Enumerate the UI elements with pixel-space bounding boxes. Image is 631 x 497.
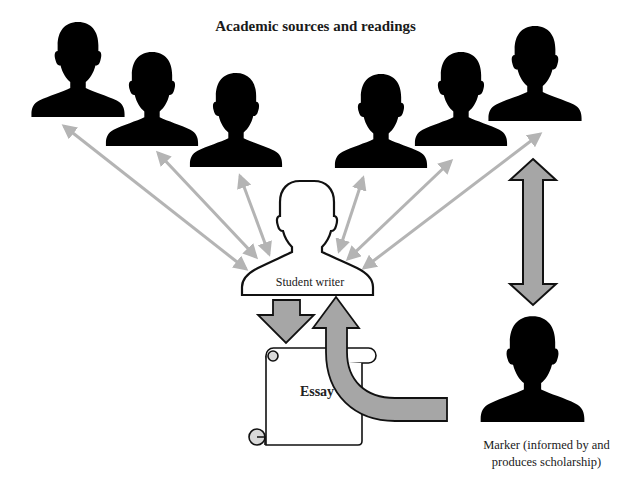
marker-person <box>481 316 585 422</box>
source-person-5 <box>415 52 507 146</box>
marker-label-line-2: produces scholarship) <box>462 454 631 471</box>
source-person-2 <box>106 52 198 146</box>
arrow-source-3 <box>240 176 269 254</box>
essay-label: Essay <box>282 384 352 400</box>
arrow-source-5 <box>348 161 451 259</box>
arrow-source-2 <box>158 153 256 257</box>
arrow-source-4 <box>339 178 363 251</box>
source-person-1 <box>31 22 124 117</box>
source-person-4 <box>335 74 427 168</box>
marker-label: Marker (informed by and produces scholar… <box>462 437 631 471</box>
diagram-canvas: Academic sources and readings Student wr… <box>0 0 631 497</box>
diagram-graphics <box>0 0 631 497</box>
student-writer-label: Student writer <box>250 275 370 290</box>
student-to-essay-arrow <box>258 300 314 343</box>
source-person-6 <box>488 26 581 121</box>
source-person-3 <box>190 73 282 167</box>
marker-label-line-1: Marker (informed by and <box>462 437 631 454</box>
marker-sources-double-arrow <box>510 159 556 305</box>
diagram-title: Academic sources and readings <box>0 18 631 35</box>
